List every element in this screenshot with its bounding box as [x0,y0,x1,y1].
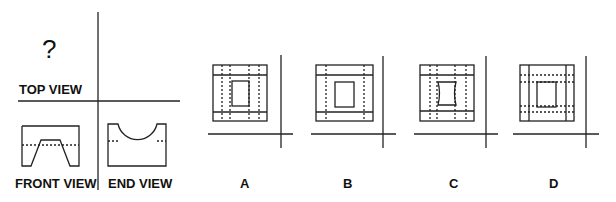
option-d-label[interactable]: D [549,176,558,191]
option-a-label[interactable]: A [240,176,249,191]
option-a-drawing [208,55,293,148]
front-view-label: FRONT VIEW [15,176,97,191]
orthographic-drawing [0,0,616,202]
unknown-top-view-marker: ? [42,34,56,65]
front-view-shape [22,126,79,166]
option-d-drawing [513,56,599,148]
end-view-label: END VIEW [108,176,172,191]
end-view-shape [108,124,166,166]
option-c-label[interactable]: C [449,176,458,191]
top-view-label: TOP VIEW [19,82,82,97]
option-b-label[interactable]: B [343,176,352,191]
option-c-drawing [414,56,498,148]
option-b-drawing [311,56,396,148]
